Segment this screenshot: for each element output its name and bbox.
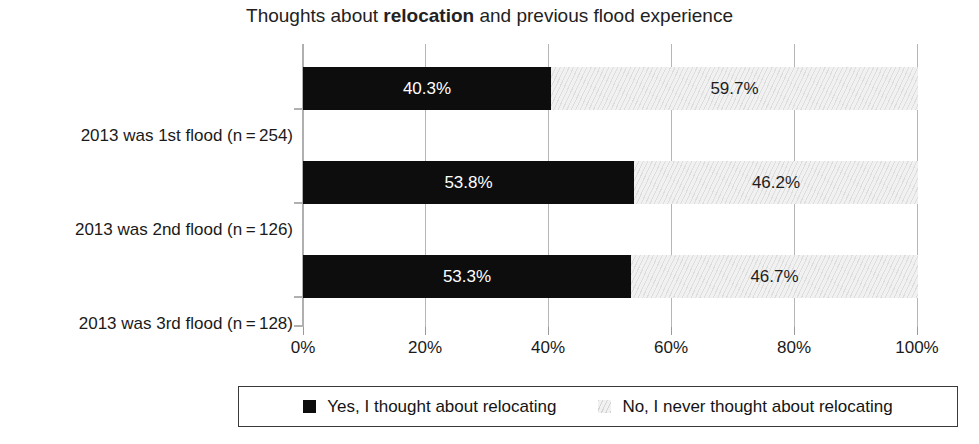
x-tick-0 — [303, 327, 304, 335]
category-axis-labels: 2013 was 1st flood (n = 254) 2013 was 2n… — [5, 44, 293, 327]
x-tick-20 — [425, 327, 426, 335]
chart-title-part-after: and previous flood experience — [474, 5, 733, 26]
bar-value-label-no-2: 46.7% — [750, 267, 798, 287]
x-tick-80 — [794, 327, 795, 335]
category-label-2: 2013 was 3rd flood (n = 128) — [13, 314, 293, 334]
legend-label-yes: Yes, I thought about relocating — [327, 397, 556, 417]
category-tick-1 — [294, 202, 303, 204]
chart-title-part-before: Thoughts about — [246, 5, 383, 26]
x-axis-label-0: 0% — [291, 338, 316, 358]
stacked-bar-chart: Thoughts about relocation and previous f… — [0, 0, 979, 444]
x-axis-label-40: 40% — [531, 338, 565, 358]
chart-legend: Yes, I thought about relocating No, I ne… — [238, 386, 958, 427]
x-axis-labels: 0% 20% 40% 60% 80% 100% — [303, 338, 918, 364]
bar-value-label-no-1: 46.2% — [752, 173, 800, 193]
x-tick-40 — [548, 327, 549, 335]
legend-item-no[interactable]: No, I never thought about relocating — [598, 397, 892, 417]
category-tick-0 — [294, 108, 303, 110]
x-tick-100 — [917, 327, 918, 335]
bar-segment-no-2: 46.7% — [631, 255, 918, 298]
category-tick-3 — [294, 325, 303, 327]
bar-value-label-yes-1: 53.8% — [444, 173, 492, 193]
bar-segment-yes-1: 53.8% — [303, 161, 634, 204]
x-axis-label-20: 20% — [408, 338, 442, 358]
x-axis-label-80: 80% — [777, 338, 811, 358]
chart-title: Thoughts about relocation and previous f… — [0, 4, 979, 28]
category-label-0: 2013 was 1st flood (n = 254) — [13, 126, 293, 146]
bar-segment-no-1: 46.2% — [634, 161, 918, 204]
category-label-1: 2013 was 2nd flood (n = 126) — [13, 220, 293, 240]
x-axis-label-60: 60% — [654, 338, 688, 358]
bar-value-label-no-0: 59.7% — [710, 79, 758, 99]
bar-value-label-yes-2: 53.3% — [443, 267, 491, 287]
bar-segment-no-0: 59.7% — [551, 67, 918, 110]
category-tick-2 — [294, 296, 303, 298]
chart-title-emphasis: relocation — [383, 5, 474, 26]
x-tick-60 — [671, 327, 672, 335]
legend-swatch-yes-icon — [303, 400, 316, 413]
legend-label-no: No, I never thought about relocating — [622, 397, 892, 417]
bar-row-0: 40.3% 59.7% — [303, 67, 918, 110]
bar-row-1: 53.8% 46.2% — [303, 161, 918, 204]
bar-segment-yes-2: 53.3% — [303, 255, 631, 298]
legend-item-yes[interactable]: Yes, I thought about relocating — [303, 397, 556, 417]
bar-segment-yes-0: 40.3% — [303, 67, 551, 110]
x-axis-label-100: 100% — [895, 338, 938, 358]
bar-value-label-yes-0: 40.3% — [403, 79, 451, 99]
bar-row-2: 53.3% 46.7% — [303, 255, 918, 298]
plot-area: 40.3% 59.7% 53.8% 46.2% 53.3% 46.7% — [303, 44, 918, 327]
legend-swatch-no-icon — [598, 400, 611, 413]
